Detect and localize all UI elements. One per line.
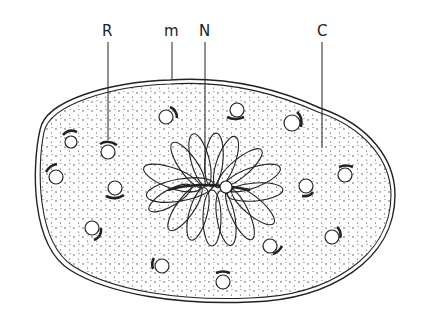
label-C: C — [317, 22, 327, 40]
label-m: m — [164, 22, 179, 40]
label-N: N — [199, 22, 210, 40]
cell-diagram: R m N C — [0, 0, 428, 328]
organelle — [220, 181, 232, 193]
label-R: R — [102, 22, 112, 40]
